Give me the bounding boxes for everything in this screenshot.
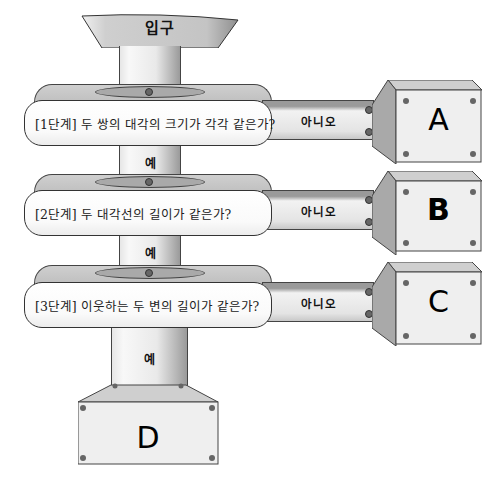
- stage-3-question-text: [3단계] 이웃하는 두 변의 길이가 같은가?: [35, 296, 259, 315]
- stage-1-question-text: [1단계] 두 쌍의 대각의 크기가 각각 같은가?: [35, 114, 275, 133]
- stage-1-no-pipe: 아니오: [262, 100, 374, 140]
- stage-2-question: [2단계] 두 대각선의 길이가 같은가?: [24, 190, 272, 236]
- bolt-icon: [145, 178, 153, 186]
- stage-1-question: [1단계] 두 쌍의 대각의 크기가 각각 같은가?: [24, 100, 272, 146]
- stage-1-no-label: 아니오: [301, 113, 337, 129]
- entrance-label: 입구: [110, 16, 210, 37]
- result-b: B: [396, 192, 481, 227]
- bolt-icon: [145, 269, 153, 277]
- bolt-icon: [145, 88, 153, 96]
- stage-2-question-text: [2단계] 두 대각선의 길이가 같은가?: [35, 204, 231, 223]
- stage-3-question: [3단계] 이웃하는 두 변의 길이가 같은가?: [24, 282, 272, 328]
- result-c: C: [396, 284, 481, 319]
- result-d: D: [78, 420, 218, 455]
- pillar-stage-2-yes: 예: [119, 236, 181, 268]
- stage-2-yes-label: 예: [120, 244, 180, 261]
- stage-3-no-label: 아니오: [301, 295, 337, 311]
- stage-2-no-pipe: 아니오: [262, 190, 374, 230]
- stage-1-yes-label: 예: [120, 154, 180, 171]
- stage-2-no-label: 아니오: [301, 203, 337, 219]
- result-a: A: [396, 102, 481, 137]
- stage-3-no-pipe: 아니오: [262, 282, 374, 322]
- stage-3-yes-label: 예: [112, 350, 187, 367]
- pillar-entrance: [119, 46, 181, 88]
